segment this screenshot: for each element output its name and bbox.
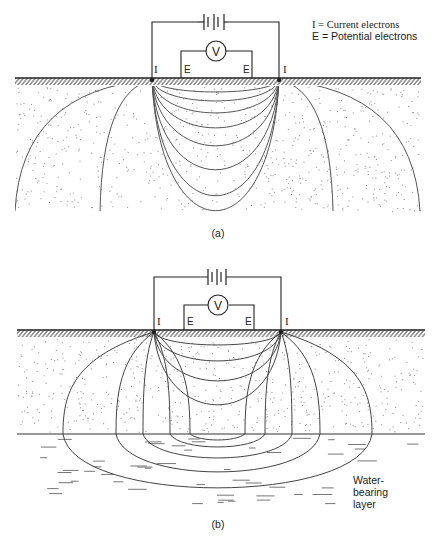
stipple-dot [63,358,64,359]
stipple-dot [337,196,338,197]
stipple-dot [187,431,188,432]
stipple-dot [315,369,316,370]
stipple-dot [72,201,73,202]
stipple-dot [341,396,342,397]
stipple-dot [328,389,329,390]
stipple-dot [304,402,305,403]
stipple-dot [405,186,406,187]
stipple-dot [418,96,419,97]
stipple-dot [142,368,143,369]
current-electrode-label-left: I [154,63,158,75]
stipple-dot [319,354,320,355]
stipple-dot [124,149,125,150]
flow-line [152,80,279,128]
stipple-dot [108,394,109,395]
stipple-dot [404,170,405,171]
stipple-dot [139,400,140,401]
stipple-dot [163,421,164,422]
stipple-dot [374,156,375,157]
stipple-dot [263,363,264,364]
stipple-dot [406,423,407,424]
stipple-dot [179,144,180,145]
stipple-dot [399,174,400,175]
stipple-dot [289,177,290,178]
stipple-dot [412,347,413,348]
stipple-dot [290,188,291,189]
stipple-dot [342,401,343,402]
stipple-dot [247,166,248,167]
stipple-dot [146,172,147,173]
stipple-dot [228,420,229,421]
stipple-dot [356,131,357,132]
stipple-dot [93,419,94,420]
stipple-dot [67,205,68,206]
stipple-dot [26,391,27,392]
stipple-dot [76,420,77,421]
stipple-dot [215,375,216,376]
stipple-dot [58,125,59,126]
stipple-dot [296,202,297,203]
stipple-dot [104,346,105,347]
stipple-dot [173,358,174,359]
stipple-dot [419,418,420,419]
stipple-dot [257,422,258,423]
stipple-dot [270,344,271,345]
stipple-dot [150,136,151,137]
stipple-dot [155,196,156,197]
stipple-dot [390,90,391,91]
stipple-dot [93,413,94,414]
stipple-dot [365,107,366,108]
stipple-dot [77,392,78,393]
stipple-dot [94,104,95,105]
stipple-dot [354,175,355,176]
battery-icon [206,269,228,285]
stipple-dot [299,194,300,195]
stipple-dot [365,353,366,354]
stipple-dot [214,89,215,90]
stipple-dot [353,425,354,426]
stipple-dot [204,346,205,347]
stipple-dot [418,414,419,415]
stipple-dot [62,374,63,375]
stipple-dot [308,155,309,156]
stipple-dot [218,117,219,118]
stipple-dot [344,110,345,111]
stipple-dot [254,116,255,117]
flow-line [154,332,190,434]
stipple-dot [238,414,239,415]
stipple-dot [261,398,262,399]
stipple-dot [376,197,377,198]
stipple-dot [54,360,55,361]
stipple-dot [34,423,35,424]
stipple-dot [295,122,296,123]
stipple-dot [340,189,341,190]
stipple-dot [220,397,221,398]
stipple-dot [270,398,271,399]
stipple-dot [399,107,400,108]
stipple-dot [206,368,207,369]
stipple-dot [284,202,285,203]
stipple-dot [245,114,246,115]
stipple-dot [368,409,369,410]
stipple-dot [181,204,182,205]
stipple-dot [413,382,414,383]
stipple-dot [313,151,314,152]
stipple-dot [264,155,265,156]
stipple-dot [287,368,288,369]
stipple-dot [80,355,81,356]
stipple-dot [397,175,398,176]
stipple-dot [97,166,98,167]
stipple-dot [368,157,369,158]
stipple-dot [299,176,300,177]
stipple-dot [49,157,50,158]
stipple-dot [182,416,183,417]
stipple-dot [344,117,345,118]
stipple-dot [311,197,312,198]
stipple-dot [310,200,311,201]
stipple-dot [202,135,203,136]
stipple-dot [171,359,172,360]
stipple-dot [344,404,345,405]
stipple-dot [221,408,222,409]
stipple-dot [320,103,321,104]
stipple-dot [80,415,81,416]
